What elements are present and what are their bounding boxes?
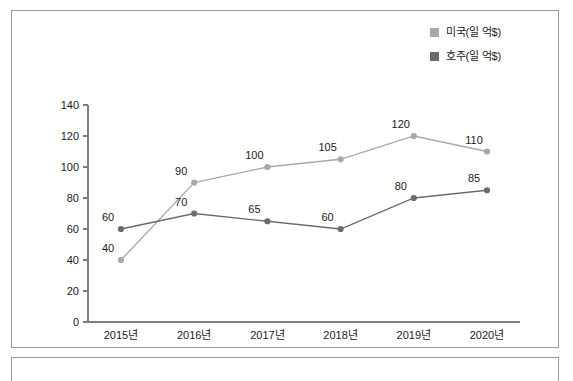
legend-swatch-au-icon [430, 52, 439, 61]
legend-label-au: 호주(일 억$) [446, 50, 501, 62]
chart-legend: 미국(일 억$) 호주(일 억$) [430, 22, 540, 70]
legend-item-us[interactable]: 미국(일 억$) [430, 22, 540, 42]
legend-item-au[interactable]: 호주(일 억$) [430, 46, 540, 66]
legend-swatch-us-icon [430, 28, 439, 37]
secondary-frame [11, 357, 559, 381]
legend-label-us: 미국(일 억$) [446, 26, 501, 38]
